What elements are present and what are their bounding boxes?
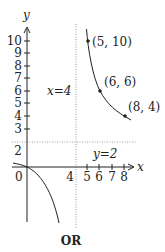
svg-text:4: 4 bbox=[14, 109, 22, 123]
origin-label: 0 bbox=[15, 170, 23, 184]
x-axis-label: x bbox=[137, 160, 144, 174]
point-label-5-10: (5, 10) bbox=[92, 35, 132, 49]
horizontal-asymptote-label: y=2 bbox=[92, 147, 117, 161]
svg-text:5: 5 bbox=[83, 170, 91, 184]
caption-or: OR bbox=[61, 234, 82, 248]
svg-text:2: 2 bbox=[14, 144, 22, 158]
graph-figure: y x 10 9 8 7 6 5 4 3 2 0 4 5 6 7 8 x=4 y… bbox=[0, 0, 165, 252]
svg-text:7: 7 bbox=[108, 170, 116, 184]
svg-text:5: 5 bbox=[14, 96, 22, 110]
point-8-4 bbox=[123, 114, 127, 118]
x-tick-labels: 5 6 7 8 bbox=[83, 170, 128, 184]
svg-text:9: 9 bbox=[14, 46, 22, 60]
point-label-6-6: (6, 6) bbox=[104, 75, 136, 89]
y-tick-labels: 10 9 8 7 6 5 4 3 2 bbox=[7, 34, 23, 158]
svg-text:7: 7 bbox=[14, 71, 22, 85]
y-axis-label: y bbox=[22, 8, 30, 22]
point-label-8-4: (8, 4) bbox=[128, 100, 160, 114]
point-6-6 bbox=[98, 89, 102, 93]
x-tick-label-4: 4 bbox=[66, 170, 74, 184]
svg-text:8: 8 bbox=[120, 170, 128, 184]
svg-text:3: 3 bbox=[14, 122, 22, 136]
svg-text:6: 6 bbox=[95, 170, 103, 184]
point-5-10 bbox=[86, 39, 90, 43]
vertical-asymptote-label: x=4 bbox=[47, 84, 71, 98]
